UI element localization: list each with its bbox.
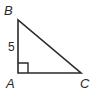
triangle-diagram: B A C 5	[0, 0, 92, 97]
vertex-label-a: A	[5, 76, 15, 91]
right-angle-marker	[18, 63, 28, 73]
side-ab-length: 5	[8, 40, 15, 54]
vertex-label-c: C	[80, 76, 90, 91]
vertex-label-b: B	[4, 3, 13, 18]
